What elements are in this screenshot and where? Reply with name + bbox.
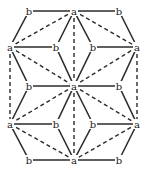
node-b: b bbox=[25, 81, 33, 92]
node-a: a bbox=[6, 119, 14, 130]
node-label: b bbox=[26, 6, 32, 17]
node-label: b bbox=[116, 81, 122, 92]
node-b: b bbox=[25, 6, 33, 17]
node-label: a bbox=[134, 42, 140, 53]
node-label: a bbox=[7, 42, 13, 53]
node-label: b bbox=[116, 6, 122, 17]
node-a: a bbox=[133, 42, 141, 53]
node-a: a bbox=[133, 119, 141, 130]
node-label: a bbox=[71, 155, 77, 166]
node-b: b bbox=[52, 119, 60, 130]
node-label: a bbox=[7, 119, 13, 130]
node-a: a bbox=[70, 6, 78, 17]
node-b: b bbox=[115, 81, 123, 92]
graph-diagram: bababbabababbabab bbox=[0, 0, 150, 171]
node-label: b bbox=[90, 42, 96, 53]
node-label: a bbox=[71, 81, 77, 92]
node-a: a bbox=[6, 42, 14, 53]
node-b: b bbox=[115, 155, 123, 166]
node-label: a bbox=[134, 119, 140, 130]
node-layer: bababbabababbabab bbox=[6, 6, 141, 166]
node-a: a bbox=[70, 155, 78, 166]
node-b: b bbox=[52, 42, 60, 53]
node-a: a bbox=[70, 81, 78, 92]
node-label: b bbox=[53, 119, 59, 130]
node-b: b bbox=[25, 155, 33, 166]
node-label: b bbox=[116, 155, 122, 166]
node-label: b bbox=[26, 155, 32, 166]
node-b: b bbox=[115, 6, 123, 17]
node-label: b bbox=[26, 81, 32, 92]
node-label: a bbox=[71, 6, 77, 17]
node-label: b bbox=[90, 119, 96, 130]
node-b: b bbox=[89, 119, 97, 130]
node-b: b bbox=[89, 42, 97, 53]
node-label: b bbox=[53, 42, 59, 53]
